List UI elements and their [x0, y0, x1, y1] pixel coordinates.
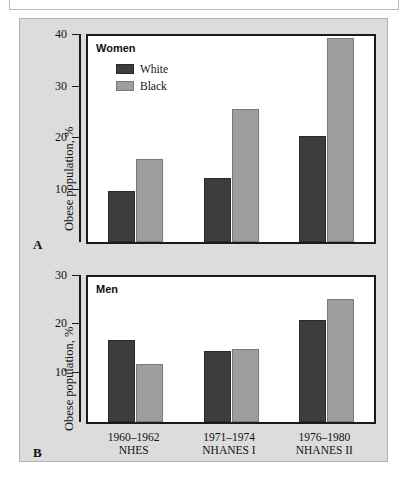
- y-tick-mark: [72, 189, 79, 190]
- page-top-strip: [9, 0, 399, 10]
- x-label-period: 1976–1980: [269, 431, 379, 444]
- y-tick-label: 10: [41, 366, 67, 378]
- chart-title-women: Women: [96, 42, 136, 54]
- legend-label-black: Black: [140, 79, 167, 93]
- chart-panel-women: A Obese population, % 10203040 Women Whi…: [20, 19, 389, 264]
- bar-white-2: [204, 351, 231, 423]
- bar-black-3: [327, 38, 354, 242]
- x-label-period: 1960–1962: [79, 431, 189, 444]
- y-tick-mark: [72, 137, 79, 138]
- x-label-survey: NHANES II: [269, 444, 379, 457]
- y-tick-label: 10: [41, 183, 67, 195]
- x-axis-group-label-2: 1971–1974NHANES I: [174, 431, 284, 457]
- panel-letter-a: A: [33, 237, 42, 253]
- plot-area-women: Women White Black: [86, 34, 376, 244]
- legend-swatch-black-icon: [116, 81, 134, 91]
- figure-panel: A Obese population, % 10203040 Women Whi…: [19, 18, 388, 462]
- x-axis-group-label-3: 1976–1980NHANES II: [269, 431, 379, 457]
- bar-black-1: [136, 364, 163, 422]
- y-tick-label: 40: [41, 28, 67, 40]
- legend-label-white: White: [140, 62, 168, 76]
- y-tick-label: 30: [41, 269, 67, 281]
- chart-title-men: Men: [96, 283, 118, 295]
- y-tick-mark: [72, 275, 79, 276]
- bar-white-3: [299, 136, 326, 242]
- y-tick-mark: [72, 34, 79, 35]
- legend-swatch-white-icon: [116, 64, 134, 74]
- y-tick-label: 30: [41, 80, 67, 92]
- x-label-survey: NHES: [79, 444, 189, 457]
- plot-area-men: Men: [86, 275, 376, 424]
- y-tick-mark: [72, 372, 79, 373]
- x-label-survey: NHANES I: [174, 444, 284, 457]
- x-axis-group-label-1: 1960–1962NHES: [79, 431, 189, 457]
- y-axis-line-women: [79, 34, 81, 242]
- y-axis-title-men: Obese population, %: [62, 327, 77, 432]
- chart-panel-men: B Obese population, % 102030 Men 1960–19…: [20, 259, 389, 463]
- y-tick-mark: [72, 323, 79, 324]
- y-tick-label: 20: [41, 131, 67, 143]
- bar-white-2: [204, 178, 231, 242]
- panel-letter-b: B: [33, 445, 42, 461]
- x-label-period: 1971–1974: [174, 431, 284, 444]
- bar-black-3: [327, 299, 354, 422]
- bar-black-2: [232, 349, 259, 422]
- y-tick-mark: [72, 86, 79, 87]
- y-tick-label: 20: [41, 317, 67, 329]
- bar-black-2: [232, 109, 259, 242]
- bar-black-1: [136, 159, 163, 242]
- bar-white-1: [108, 191, 135, 243]
- bar-white-1: [108, 340, 135, 422]
- bar-white-3: [299, 320, 326, 422]
- y-axis-line-men: [79, 275, 81, 422]
